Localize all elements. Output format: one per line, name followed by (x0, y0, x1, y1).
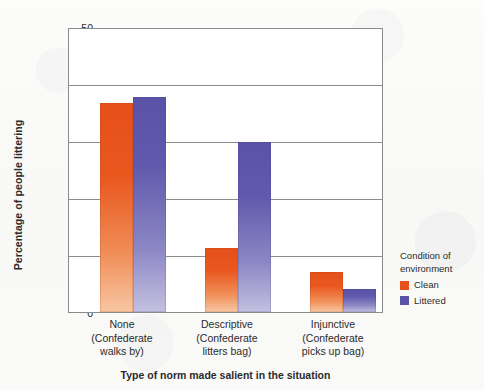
bar-littered-descriptive (238, 142, 271, 312)
bar-littered-injunctive (343, 289, 376, 312)
chart-page: 50 40 30 20 10 0 Percentage of people li… (0, 0, 484, 390)
x-group-label-descriptive: Descriptive (Confederate litters bag) (185, 318, 269, 359)
x-group-label-descriptive-line3: litters bag) (185, 345, 269, 359)
x-group-label-none-line1: None (80, 318, 164, 332)
y-axis-label: Percentage of people littering (12, 120, 24, 271)
x-axis-label: Type of norm made salient in the situati… (68, 369, 383, 381)
legend-swatch-clean (400, 281, 409, 290)
x-group-label-injunctive-line2: (Confederate (288, 332, 378, 346)
legend-item-littered: Littered (400, 295, 484, 308)
x-group-label-descriptive-line2: (Confederate (185, 332, 269, 346)
x-group-label-injunctive-line1: Injunctive (288, 318, 378, 332)
x-group-label-none: None (Confederate walks by) (80, 318, 164, 359)
legend: Condition of environment Clean Littered (400, 250, 484, 307)
bar-clean-descriptive (205, 248, 238, 312)
x-group-label-injunctive: Injunctive (Confederate picks up bag) (288, 318, 378, 359)
legend-item-clean: Clean (400, 279, 484, 292)
legend-title-line1: Condition of (400, 250, 484, 263)
bar-littered-none (133, 97, 166, 312)
legend-title: Condition of environment (400, 250, 484, 275)
bar-clean-injunctive (310, 272, 343, 312)
x-group-label-descriptive-line1: Descriptive (185, 318, 269, 332)
x-group-label-injunctive-line3: picks up bag) (288, 345, 378, 359)
bar-clean-none (100, 103, 133, 312)
legend-label-littered: Littered (414, 295, 446, 308)
legend-swatch-littered (400, 296, 409, 305)
plot-area (68, 28, 383, 313)
x-group-label-none-line2: (Confederate (80, 332, 164, 346)
legend-label-clean: Clean (414, 279, 439, 292)
gridline-40 (69, 85, 382, 86)
legend-title-line2: environment (400, 263, 484, 276)
x-group-label-none-line3: walks by) (80, 345, 164, 359)
